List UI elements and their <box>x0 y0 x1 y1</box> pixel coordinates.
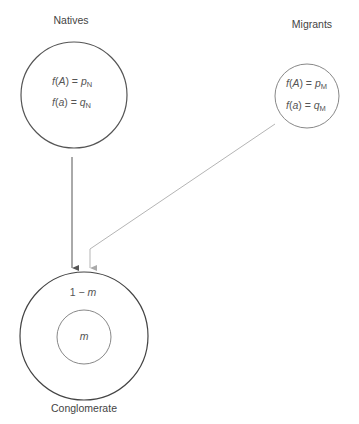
natives-eq-q: f(a) = qN <box>52 96 91 110</box>
migrants-arrow <box>90 124 275 268</box>
migrants-title: Migrants <box>292 18 332 30</box>
migrants-circle <box>275 64 339 128</box>
natives-circle <box>21 42 127 148</box>
natives-title: Natives <box>53 14 88 26</box>
native-fraction-label: 1 − m <box>70 286 97 298</box>
migrants-eq-p: f(A) = pM <box>286 77 327 91</box>
migrant-fraction-label: m <box>80 330 89 342</box>
conglomerate-title: Conglomerate <box>51 402 117 414</box>
natives-eq-p: f(A) = pN <box>52 75 92 89</box>
migrants-eq-q: f(a) = qM <box>286 99 326 113</box>
gene-flow-diagram: Natives f(A) = pN f(a) = qN Migrants f(A… <box>0 0 359 424</box>
